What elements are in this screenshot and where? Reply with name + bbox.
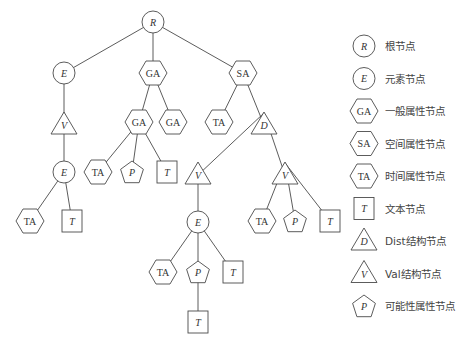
tree-nodes: REGASAVGAGATADETAPTVVTATETAPTTAPTT [16,11,340,333]
xml-tree-diagram: REGASAVGAGATADETAPTVVTATETAPTTAPTT R根节点E… [0,0,466,343]
legend-label: 时间属性节点 [385,170,445,182]
node-label: GA [357,106,372,117]
node-label: SA [237,68,251,79]
legend-item: P可能性属性节点 [353,295,455,317]
node-label: TA [213,117,226,128]
node-label: GA [146,68,161,79]
legend-label: 根节点 [385,40,415,52]
node-label: E [60,167,67,178]
tree-node-t3: T [320,210,340,232]
tree-node-p2: P [284,210,307,232]
tree-node-e1: E [53,62,75,84]
tree-node-ta3: TA [16,209,44,233]
tree-node-ga3: GA [159,110,187,134]
tree-node-ga2: GA [125,110,153,134]
tree-node-ga1: GA [139,61,167,85]
tree-edge [64,22,153,73]
tree-node-p3: P [187,261,210,283]
legend-item: VVal结构节点 [351,261,441,283]
tree-node-v2: V [185,162,211,184]
tree-node-ta1: TA [205,110,233,134]
node-label: D [259,120,268,131]
tree-node-t4: T [223,261,243,283]
tree-node-e3: E [187,211,209,233]
node-label: R [149,17,156,28]
tree-node-r: R [142,11,164,33]
node-label: GA [132,117,147,128]
legend-label: 可能性属性节点 [385,300,455,312]
tree-node-d1: D [251,112,277,134]
node-label: TA [157,267,170,278]
node-label: R [360,41,367,52]
node-label: TA [358,171,371,182]
legend-label: Val结构节点 [385,268,441,280]
tree-node-ta4: TA [248,209,276,233]
node-label: GA [166,117,181,128]
tree-node-v3: V [272,162,298,184]
legend-item: R根节点 [353,35,415,57]
node-label: SA [358,138,372,149]
node-label: E [60,68,67,79]
node-label: P [360,301,367,312]
legend-label: Dist结构节点 [385,235,446,247]
legend-item: DDist结构节点 [351,228,446,250]
legend-label: 文本节点 [385,203,425,215]
node-label: D [359,236,368,247]
tree-node-ta2: TA [84,160,112,184]
legend-label: 元素节点 [385,73,425,85]
tree-node-ta5: TA [149,260,177,284]
node-label: P [291,216,298,227]
node-label: TA [24,216,37,227]
tree-node-t2: T [62,210,82,232]
node-label: TA [256,216,269,227]
tree-node-p1: P [121,161,144,183]
legend-label: 一般属性节点 [385,105,445,117]
node-label: P [194,267,201,278]
legend-item: E元素节点 [353,68,425,90]
tree-node-e2: E [53,161,75,183]
legend-label: 空间属性节点 [385,138,445,150]
tree-node-t1: T [157,161,177,183]
tree-edge [153,22,243,73]
legend-item: TA时间属性节点 [350,164,445,188]
legend-item: GA一般属性节点 [350,99,445,123]
legend: R根节点E元素节点GA一般属性节点SA空间属性节点TA时间属性节点T文本节点DD… [350,35,455,317]
legend-item: SA空间属性节点 [350,132,445,156]
node-label: P [128,167,135,178]
tree-node-sa1: SA [229,61,257,85]
node-label: TA [92,167,105,178]
tree-node-v1: V [51,112,77,134]
node-label: E [194,217,201,228]
tree-node-t5: T [188,311,208,333]
legend-item: T文本节点 [354,198,425,220]
node-label: E [360,73,367,84]
